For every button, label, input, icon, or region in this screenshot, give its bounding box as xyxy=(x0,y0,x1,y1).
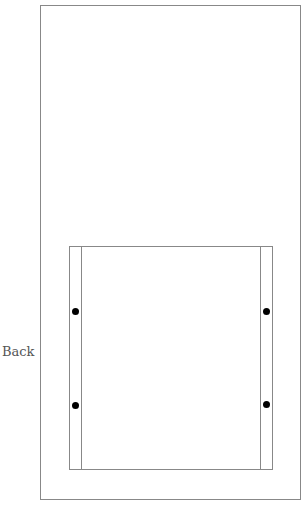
dot-icon xyxy=(263,308,270,315)
inner-panel xyxy=(69,246,273,470)
dot-icon xyxy=(263,401,270,408)
left-strip xyxy=(69,246,82,470)
dot-icon xyxy=(72,402,79,409)
back-label: Back xyxy=(2,344,34,359)
right-strip xyxy=(260,246,273,470)
dot-icon xyxy=(72,308,79,315)
